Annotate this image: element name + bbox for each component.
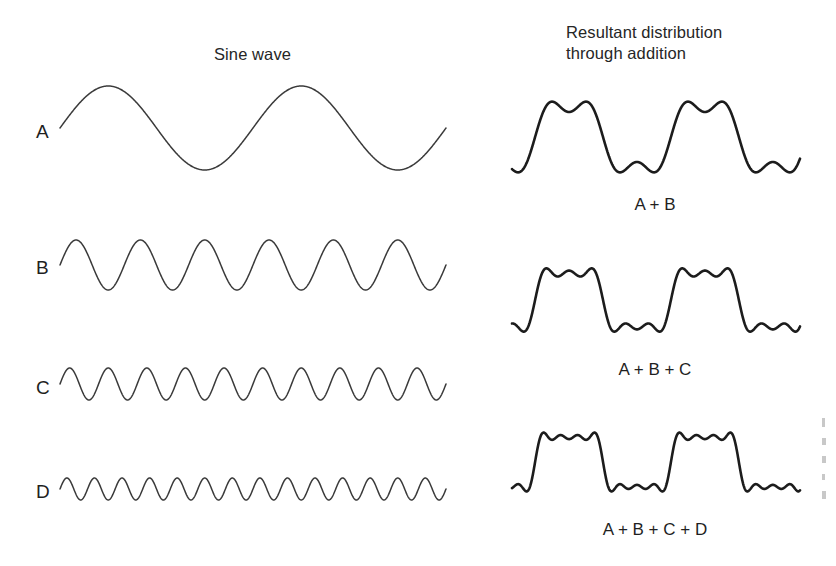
resultant-abcd-path (512, 433, 800, 492)
sine-wave-c-path (60, 368, 446, 400)
waveform-canvas (0, 0, 836, 566)
sine-wave-d-path (60, 478, 446, 500)
resultant-ab-path (512, 102, 800, 173)
cropped-caption-fragments (822, 418, 836, 526)
sine-wave-a-path (60, 86, 446, 170)
sine-wave-b-path (60, 240, 446, 290)
resultant-abc-path (512, 268, 800, 331)
fourier-synthesis-figure: Sine wave Resultant distribution through… (0, 0, 836, 566)
